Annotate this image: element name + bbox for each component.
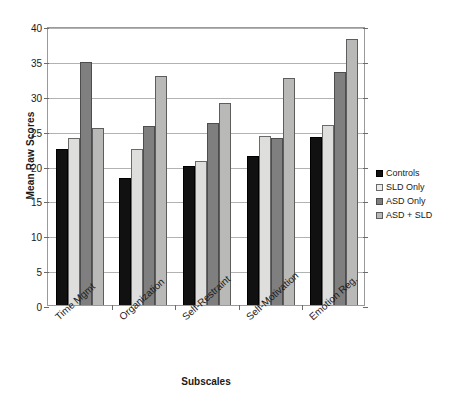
- y-tick-label: 40: [31, 23, 42, 34]
- legend-swatch: [376, 184, 383, 191]
- bar: [195, 161, 207, 305]
- bar: [56, 149, 68, 305]
- x-tick-mark: [302, 305, 303, 310]
- bar: [92, 128, 104, 305]
- bar: [334, 72, 346, 305]
- bar: [183, 166, 195, 305]
- y-tick-label: 30: [31, 92, 42, 103]
- legend-item: ASD Only: [376, 196, 432, 206]
- legend-label: Controls: [386, 168, 420, 178]
- y-tick-mark: [44, 307, 49, 308]
- bar: [131, 149, 143, 305]
- bar: [143, 126, 155, 305]
- y-tick-label: 25: [31, 127, 42, 138]
- legend-label: ASD Only: [386, 196, 426, 206]
- bar: [310, 137, 322, 305]
- bar: [322, 125, 334, 305]
- bar: [259, 136, 271, 305]
- bar: [80, 62, 92, 305]
- y-tick-label: 20: [31, 162, 42, 173]
- x-tick-mark: [112, 305, 113, 310]
- bar: [155, 76, 167, 305]
- legend-label: ASD + SLD: [386, 210, 432, 220]
- legend-swatch: [376, 212, 383, 219]
- bar-group: [302, 28, 366, 305]
- bar: [68, 138, 80, 305]
- bar-chart: Mean Raw Scores 0510152025303540 Time Mg…: [0, 0, 463, 404]
- x-axis-title: Subscales: [45, 376, 367, 387]
- legend-item: SLD Only: [376, 182, 432, 192]
- bar: [346, 39, 358, 305]
- x-tick-mark: [175, 305, 176, 310]
- legend-item: ASD + SLD: [376, 210, 432, 220]
- bar: [119, 178, 131, 305]
- chart-legend: ControlsSLD OnlyASD OnlyASD + SLD: [376, 168, 432, 220]
- plot-area: 0510152025303540: [47, 27, 365, 306]
- bar: [247, 156, 259, 305]
- legend-swatch: [376, 198, 383, 205]
- y-tick-label: 5: [36, 267, 42, 278]
- y-tick-mark: [363, 307, 368, 308]
- y-tick-label: 35: [31, 57, 42, 68]
- legend-item: Controls: [376, 168, 432, 178]
- x-tick-mark: [239, 305, 240, 310]
- bar-group: [48, 28, 112, 305]
- bar: [207, 123, 219, 305]
- bar-group: [112, 28, 176, 305]
- y-tick-label: 10: [31, 232, 42, 243]
- y-tick-label: 0: [36, 302, 42, 313]
- legend-swatch: [376, 170, 383, 177]
- bar-group: [239, 28, 303, 305]
- legend-label: SLD Only: [386, 182, 425, 192]
- y-tick-label: 15: [31, 197, 42, 208]
- bar-group: [175, 28, 239, 305]
